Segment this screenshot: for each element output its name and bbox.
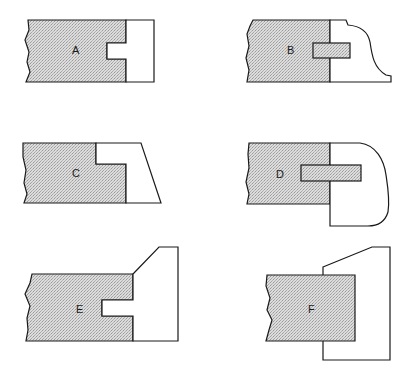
panel-d-spline: [301, 165, 361, 181]
diagram-canvas: A B C D E F: [0, 0, 408, 379]
panel-f: F: [266, 247, 390, 360]
panel-d-white-piece: [330, 143, 389, 226]
panel-c-label: C: [72, 167, 80, 179]
panel-d-label: D: [276, 168, 284, 180]
panel-a-label: A: [72, 44, 80, 56]
panel-b-label: B: [287, 44, 294, 56]
panel-e: E: [25, 247, 178, 341]
panel-b: B: [246, 20, 391, 82]
panel-c: C: [23, 143, 161, 203]
panel-a: A: [25, 20, 154, 82]
panel-e-label: E: [76, 303, 83, 315]
panel-f-label: F: [308, 303, 315, 315]
panel-b-spline: [313, 43, 350, 58]
panel-d: D: [246, 143, 389, 226]
